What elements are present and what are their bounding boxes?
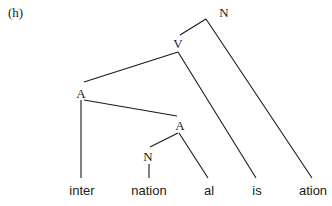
node-a-upper: A (76, 87, 85, 100)
tree-edge (206, 19, 312, 178)
tree-edge (178, 52, 256, 178)
tree-edges (0, 0, 332, 206)
tree-edge (84, 52, 178, 82)
tree-edge (180, 19, 206, 35)
node-n-lower: N (143, 150, 152, 163)
leaf-is: is (252, 184, 261, 197)
node-a-lower: A (175, 119, 184, 132)
tree-edge (84, 100, 177, 116)
tree-edge (150, 133, 178, 147)
figure-tag: (h) (8, 6, 23, 19)
leaf-inter: inter (69, 184, 94, 197)
leaf-ation: ation (299, 184, 327, 197)
leaf-nation: nation (131, 184, 166, 197)
tree-edge (179, 133, 208, 178)
node-n-root: N (219, 6, 228, 19)
node-v: V (173, 37, 182, 50)
leaf-al: al (204, 184, 214, 197)
